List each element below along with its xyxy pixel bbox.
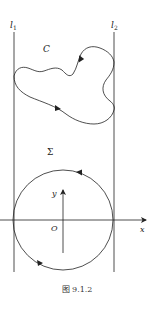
line-l2-label: l2: [111, 20, 118, 31]
y-axis-label: y: [51, 189, 57, 198]
curve-c-label: C: [43, 44, 50, 54]
line-l1-label: l1: [10, 20, 17, 31]
curve-c: [14, 47, 114, 124]
circle-arrow-top: [76, 170, 82, 176]
origin-label: O: [51, 224, 58, 233]
region-sigma-label: Σ: [47, 147, 53, 157]
figure-9-1-2: l1 l2 C Σ x y O 图 9.1.2: [0, 0, 155, 309]
x-axis-label: x: [140, 225, 145, 234]
figure-caption: 图 9.1.2: [62, 285, 93, 294]
